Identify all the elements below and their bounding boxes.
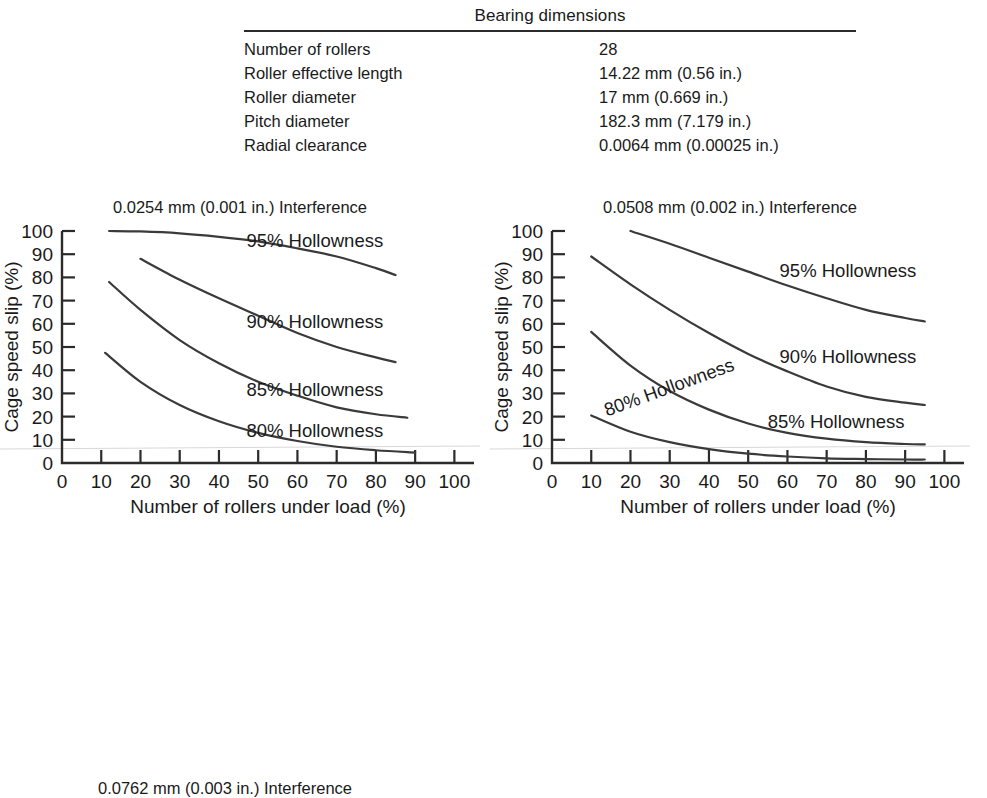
series-label: 95% Hollowness xyxy=(246,230,383,251)
x-tick-label: 100 xyxy=(439,471,471,492)
series-label: 95% Hollowness xyxy=(780,260,917,281)
y-tick-label: 30 xyxy=(522,383,543,404)
y-tick-label: 10 xyxy=(32,430,53,451)
chart-left-plot: 0102030405060708090100010203040506070809… xyxy=(0,221,480,521)
x-tick-label: 20 xyxy=(620,471,641,492)
table-row: Pitch diameter 182.3 mm (7.179 in.) xyxy=(244,109,856,133)
x-tick-label: 70 xyxy=(816,471,837,492)
series-label: 80% Hollowness xyxy=(601,354,737,421)
x-tick-label: 40 xyxy=(208,471,229,492)
x-axis-label: Number of rollers under load (%) xyxy=(130,496,406,517)
x-tick-label: 30 xyxy=(169,471,190,492)
x-tick-label: 50 xyxy=(248,471,269,492)
y-tick-label: 60 xyxy=(522,314,543,335)
series-label: 85% Hollowness xyxy=(246,379,383,400)
y-axis-label: Cage speed slip (%) xyxy=(491,261,512,432)
y-tick-label: 40 xyxy=(522,360,543,381)
table-title: Bearing dimensions xyxy=(244,6,856,30)
row-label: Number of rollers xyxy=(244,37,599,61)
y-tick-label: 100 xyxy=(511,221,543,242)
x-tick-label: 80 xyxy=(855,471,876,492)
row-value: 14.22 mm (0.56 in.) xyxy=(599,61,856,85)
row-label: Roller diameter xyxy=(244,85,599,109)
y-tick-label: 20 xyxy=(32,407,53,428)
table-row: Roller diameter 17 mm (0.669 in.) xyxy=(244,85,856,109)
x-tick-label: 20 xyxy=(130,471,151,492)
x-tick-label: 40 xyxy=(698,471,719,492)
y-tick-label: 60 xyxy=(32,314,53,335)
chart-left-title: 0.0254 mm (0.001 in.) Interference xyxy=(0,198,480,217)
table-row: Radial clearance 0.0064 mm (0.00025 in.) xyxy=(244,133,856,157)
row-label: Radial clearance xyxy=(244,133,599,157)
x-tick-label: 0 xyxy=(57,471,68,492)
y-tick-label: 90 xyxy=(32,244,53,265)
chart-right-title: 0.0508 mm (0.002 in.) Interference xyxy=(490,198,970,217)
x-tick-label: 80 xyxy=(365,471,386,492)
y-tick-label: 10 xyxy=(522,430,543,451)
bearing-dimensions-table: Bearing dimensions Number of rollers 28 … xyxy=(244,6,856,158)
x-tick-label: 10 xyxy=(91,471,112,492)
x-tick-label: 90 xyxy=(405,471,426,492)
chart-right-interference: 0.0508 mm (0.002 in.) Interference 01020… xyxy=(490,198,970,521)
y-tick-label: 20 xyxy=(522,407,543,428)
y-tick-label: 80 xyxy=(32,267,53,288)
row-value: 182.3 mm (7.179 in.) xyxy=(599,109,856,133)
y-tick-label: 50 xyxy=(32,337,53,358)
y-tick-label: 100 xyxy=(21,221,53,242)
chart-left-interference: 0.0254 mm (0.001 in.) Interference 01020… xyxy=(0,198,480,521)
y-tick-label: 30 xyxy=(32,383,53,404)
y-tick-label: 40 xyxy=(32,360,53,381)
row-value: 28 xyxy=(599,37,856,61)
series-label: 90% Hollowness xyxy=(246,311,383,332)
table-header-rule xyxy=(244,30,856,32)
y-tick-label: 0 xyxy=(532,453,543,474)
series-label: 80% Hollowness xyxy=(246,420,383,441)
table-row: Roller effective length 14.22 mm (0.56 i… xyxy=(244,61,856,85)
row-value: 0.0064 mm (0.00025 in.) xyxy=(599,133,856,157)
x-tick-label: 70 xyxy=(326,471,347,492)
x-axis-label: Number of rollers under load (%) xyxy=(620,496,896,517)
y-tick-label: 80 xyxy=(522,267,543,288)
series-label: 90% Hollowness xyxy=(780,346,917,367)
y-tick-label: 70 xyxy=(522,291,543,312)
bottom-caption: 0.0762 mm (0.003 in.) Interference xyxy=(98,779,352,798)
table-body: Number of rollers 28 Roller effective le… xyxy=(244,37,856,158)
y-tick-label: 0 xyxy=(42,453,53,474)
x-tick-label: 30 xyxy=(659,471,680,492)
x-tick-label: 100 xyxy=(929,471,961,492)
x-tick-label: 60 xyxy=(287,471,308,492)
row-value: 17 mm (0.669 in.) xyxy=(599,85,856,109)
table-row: Number of rollers 28 xyxy=(244,37,856,61)
x-tick-label: 90 xyxy=(895,471,916,492)
x-tick-label: 60 xyxy=(777,471,798,492)
row-label: Pitch diameter xyxy=(244,109,599,133)
row-label: Roller effective length xyxy=(244,61,599,85)
y-tick-label: 50 xyxy=(522,337,543,358)
y-tick-label: 70 xyxy=(32,291,53,312)
series-label: 85% Hollowness xyxy=(768,411,905,432)
chart-right-plot: 0102030405060708090100010203040506070809… xyxy=(490,221,970,521)
x-tick-label: 50 xyxy=(738,471,759,492)
y-axis-label: Cage speed slip (%) xyxy=(1,261,22,432)
x-tick-label: 10 xyxy=(581,471,602,492)
x-tick-label: 0 xyxy=(547,471,558,492)
y-tick-label: 90 xyxy=(522,244,543,265)
